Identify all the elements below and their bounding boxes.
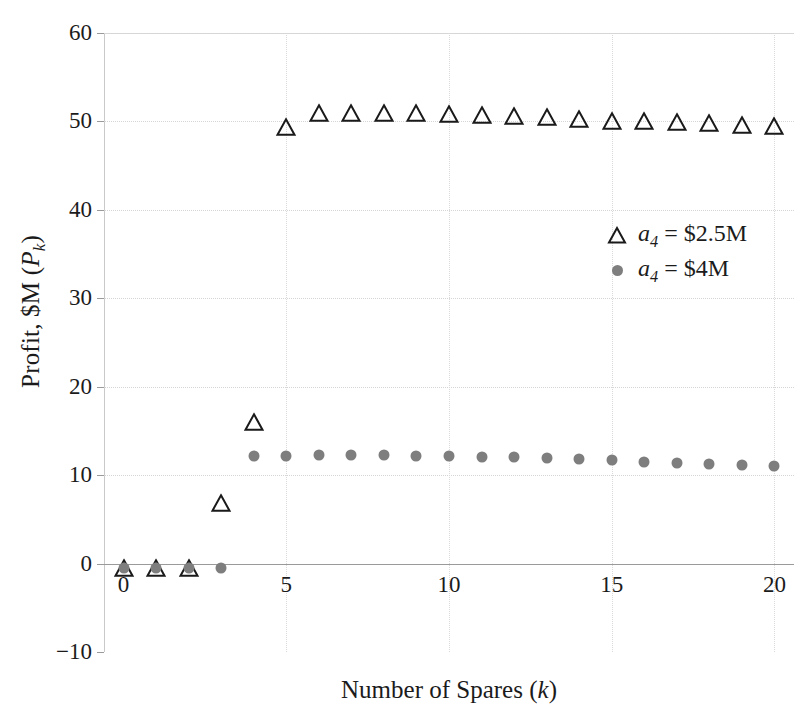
- y-tick-mark: [97, 475, 104, 476]
- plot-area: −100102030405060 05101520: [104, 33, 794, 652]
- x-axis-title-text: Number of Spares (k): [341, 676, 557, 703]
- x-tick-label: 15: [600, 572, 623, 598]
- gridline-vertical: [612, 33, 613, 652]
- legend-label: a4 = $2.5M: [632, 218, 747, 253]
- chart-figure: Profit, $M (Pk) −100102030405060 0510152…: [0, 0, 811, 726]
- y-tick-mark: [97, 652, 104, 653]
- y-tick-mark: [97, 33, 104, 34]
- y-tick-mark: [97, 387, 104, 388]
- legend-triangle-icon: [602, 226, 632, 244]
- y-tick-label: 60: [69, 20, 92, 46]
- y-axis-title-text: Profit, $M (Pk): [17, 235, 44, 388]
- y-tick-label: 0: [81, 551, 93, 577]
- x-axis-title: Number of Spares (k): [104, 676, 794, 704]
- x-tick-label: 10: [438, 572, 461, 598]
- x-tick-label: 0: [118, 572, 130, 598]
- legend-entry: a4 = $4M: [602, 253, 747, 288]
- x-tick-label: 20: [763, 572, 786, 598]
- y-tick-label: 40: [69, 197, 92, 223]
- gridline-vertical: [449, 33, 450, 652]
- y-tick-label: 50: [69, 108, 92, 134]
- y-tick-mark: [97, 121, 104, 122]
- x-tick-label: 5: [281, 572, 293, 598]
- legend-dot-icon: [602, 265, 632, 276]
- y-tick-label: 20: [69, 374, 92, 400]
- y-tick-mark: [97, 298, 104, 299]
- y-tick-label: 10: [69, 462, 92, 488]
- legend-entry: a4 = $2.5M: [602, 218, 747, 253]
- y-tick-mark: [97, 564, 104, 565]
- y-tick-mark: [97, 210, 104, 211]
- gridline-vertical: [286, 33, 287, 652]
- y-axis-title: Profit, $M (Pk): [17, 142, 50, 482]
- legend-label: a4 = $4M: [632, 253, 729, 288]
- chart-legend: a4 = $2.5Ma4 = $4M: [602, 218, 747, 287]
- gridline-vertical: [774, 33, 775, 652]
- y-tick-label: −10: [56, 639, 92, 665]
- y-tick-label: 30: [69, 285, 92, 311]
